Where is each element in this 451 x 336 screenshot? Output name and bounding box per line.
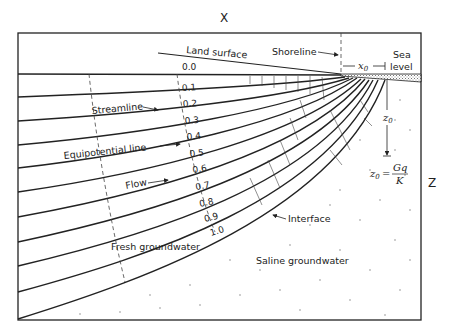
svg-text:0.1: 0.1 bbox=[182, 82, 197, 93]
svg-text:K: K bbox=[395, 175, 404, 186]
svg-text:=: = bbox=[382, 168, 390, 179]
svg-text:0.6: 0.6 bbox=[192, 163, 208, 175]
x0-label: x0 bbox=[358, 60, 369, 73]
fresh-groundwater-label: Fresh groundwater bbox=[111, 241, 200, 252]
equipotential-label: Equipotential line bbox=[63, 141, 147, 161]
svg-text:0.3: 0.3 bbox=[184, 115, 199, 126]
flow-arrow bbox=[148, 180, 168, 183]
formula: z0 = Gq K bbox=[369, 162, 408, 186]
interface-label: Interface bbox=[288, 213, 331, 224]
seawater-intrusion-diagram: X Z Land surface Shoreline Sea level x0 … bbox=[0, 0, 451, 336]
svg-text:0.7: 0.7 bbox=[195, 180, 211, 192]
svg-text:Gq: Gq bbox=[393, 162, 407, 173]
svg-text:0.4: 0.4 bbox=[186, 131, 202, 142]
shoreline-label: Shoreline bbox=[272, 46, 317, 57]
svg-text:0.5: 0.5 bbox=[189, 147, 204, 159]
sea-label: Sea bbox=[393, 49, 411, 60]
streamline-label: Streamline bbox=[91, 101, 143, 116]
axis-x-label: X bbox=[220, 11, 228, 25]
axis-z-label: Z bbox=[428, 176, 436, 190]
svg-text:z0: z0 bbox=[369, 168, 380, 181]
streamline-0-0 bbox=[18, 74, 341, 75]
land-surface-label: Land surface bbox=[186, 44, 248, 60]
svg-text:0.0: 0.0 bbox=[182, 62, 197, 72]
streamline-arrow bbox=[143, 107, 158, 110]
level-label: level bbox=[390, 61, 413, 72]
z0-label: z0 bbox=[382, 112, 393, 125]
interface-arrow bbox=[273, 215, 286, 219]
saline-groundwater-label: Saline groundwater bbox=[256, 255, 349, 266]
shoreline-arrow bbox=[318, 52, 338, 55]
svg-text:0.2: 0.2 bbox=[182, 98, 197, 109]
svg-text:0.8: 0.8 bbox=[198, 196, 214, 209]
